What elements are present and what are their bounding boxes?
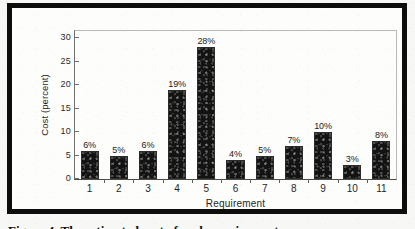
y-axis-tick-label: 20 (61, 79, 71, 89)
bar: 4%6 (226, 160, 244, 179)
x-axis-tick (163, 179, 164, 183)
x-axis-category-label: 1 (87, 183, 93, 194)
bar-value-label: 6% (142, 140, 155, 150)
figure-caption: Figure 4. The estimated cost of each req… (8, 224, 407, 229)
y-axis-tick: 10 (75, 131, 79, 132)
bar: 7%8 (285, 146, 303, 179)
y-axis-tick-label: 0 (66, 173, 71, 183)
y-axis-tick: 5 (75, 155, 79, 156)
x-axis-category-label: 9 (320, 183, 326, 194)
x-axis-category-label: 8 (291, 183, 297, 194)
bar: 3%10 (343, 165, 361, 179)
x-axis-tick (221, 179, 222, 183)
x-axis-category-label: 6 (233, 183, 239, 194)
x-axis-tick (338, 179, 339, 183)
figure-caption-text: Figure 4. The estimated cost of each req… (8, 224, 407, 229)
bar-value-label: 5% (112, 145, 125, 155)
bar-value-label: 4% (229, 149, 242, 159)
x-axis-category-label: 2 (116, 183, 122, 194)
y-axis-tick-label: 10 (61, 126, 71, 136)
y-axis-tick: 20 (75, 84, 79, 85)
x-axis-tick (192, 179, 193, 183)
x-axis-tick (279, 179, 280, 183)
bar-value-label: 8% (375, 130, 388, 140)
bar: 5%2 (110, 156, 128, 179)
bar-value-label: 6% (83, 140, 96, 150)
x-axis-category-label: 10 (347, 183, 358, 194)
y-axis-tick-label: 5 (66, 150, 71, 160)
bar-value-label: 28% (197, 36, 215, 46)
bar-value-label: 7% (287, 135, 300, 145)
x-axis-tick (250, 179, 251, 183)
bar-value-label: 3% (346, 154, 359, 164)
plot-area: 0510152025306%15%26%319%428%54%65%77%810… (74, 30, 397, 180)
x-axis-category-label: 5 (204, 183, 210, 194)
x-axis-category-label: 11 (376, 183, 386, 194)
bar: 8%11 (372, 141, 390, 179)
x-axis-category-label: 3 (145, 183, 151, 194)
figure-frame: Cost (percent) 0510152025306%15%26%319%4… (7, 3, 407, 214)
bar-value-label: 19% (168, 79, 186, 89)
bar: 28%5 (197, 47, 215, 179)
bar-value-label: 10% (314, 121, 332, 131)
bar: 6%1 (81, 151, 99, 179)
y-axis-tick: 0 (75, 178, 79, 179)
bar: 19%4 (168, 90, 186, 179)
bar-value-label: 5% (258, 145, 271, 155)
y-axis-tick: 15 (75, 108, 79, 109)
y-axis-tick-label: 30 (61, 32, 71, 42)
bar: 6%3 (139, 151, 157, 179)
x-axis-tick (308, 179, 309, 183)
x-axis-category-label: 7 (262, 183, 268, 194)
y-axis-tick: 30 (75, 37, 79, 38)
x-axis-title: Requirement (74, 198, 397, 209)
bar: 10%9 (314, 132, 332, 179)
x-axis-tick (104, 179, 105, 183)
scanned-page: Cost (percent) 0510152025306%15%26%319%4… (0, 0, 415, 229)
y-axis-title: Cost (percent) (38, 30, 51, 180)
y-axis-tick: 25 (75, 61, 79, 62)
bar: 5%7 (256, 156, 274, 179)
x-axis-category-label: 4 (174, 183, 180, 194)
y-axis-tick-label: 25 (61, 56, 71, 66)
x-axis-tick (367, 179, 368, 183)
x-axis-tick (133, 179, 134, 183)
y-axis-tick-label: 15 (61, 103, 71, 113)
